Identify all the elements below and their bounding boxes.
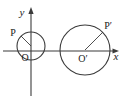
center-o-prime-label: O′ [78,53,87,64]
large-circle-group [60,25,110,75]
y-axis-label: y [19,6,25,18]
small-circle-radius-line [21,36,31,46]
point-p-label: P [10,27,16,38]
geometry-canvas: y x O P O′ P′ [0,0,124,103]
origin-label: O [21,52,28,63]
large-circle-radius-line [85,32,103,50]
y-axis-arrow-icon [28,7,33,14]
geometry-figure: y x O P O′ P′ [0,0,124,103]
point-p-prime-label: P′ [104,20,112,31]
x-axis-label: x [113,50,119,62]
